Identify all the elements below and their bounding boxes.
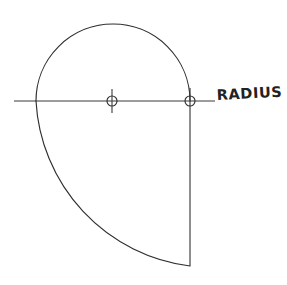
diagram-canvas: RADIUS bbox=[0, 0, 287, 285]
radius-diagram-svg: RADIUS bbox=[0, 0, 287, 285]
